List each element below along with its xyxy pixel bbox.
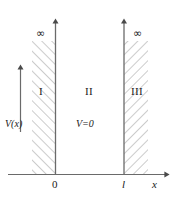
potential-function-label: V(x) [5, 119, 22, 129]
potential-zero-label: V=0 [76, 119, 94, 129]
x-tick-label-origin: 0 [52, 179, 58, 190]
infinity-label-right: ∞ [133, 28, 142, 39]
x-tick-label-width: l [122, 179, 125, 190]
x-axis-label: x [152, 179, 157, 190]
region-label-three: III [131, 86, 143, 97]
region-label-one: I [39, 86, 43, 97]
potential-well-figure: ∞ ∞ I II III V=0 V(x) 0 l x [0, 0, 178, 211]
infinity-label-left: ∞ [36, 28, 45, 39]
region-three-hatch [124, 41, 148, 174]
region-label-two: II [85, 86, 93, 97]
region-one-hatch [32, 41, 55, 174]
